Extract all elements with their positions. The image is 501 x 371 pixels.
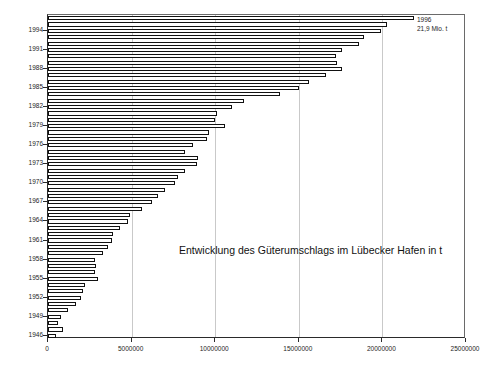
- bar-1952: [48, 296, 81, 300]
- bar-row: [48, 181, 466, 185]
- y-tick-1970: [43, 182, 47, 183]
- x-tick-25000000: [465, 338, 466, 342]
- y-tick-label-1991: 1991: [29, 45, 43, 52]
- y-tick-label-1994: 1994: [29, 26, 43, 33]
- annotation-year-label: 1996: [417, 15, 447, 24]
- bar-row: [48, 61, 466, 65]
- bar-row: [48, 270, 466, 274]
- bar-1992: [48, 42, 359, 46]
- bar-1991: [48, 48, 342, 52]
- y-tick-1991: [43, 49, 47, 50]
- bar-row: [48, 35, 466, 39]
- bar-row: [48, 105, 466, 109]
- bar-row: [48, 99, 466, 103]
- bar-row: [48, 86, 466, 90]
- bar-row: [48, 296, 466, 300]
- bar-row: [48, 150, 466, 154]
- y-tick-1955: [43, 278, 47, 279]
- bar-1972: [48, 169, 185, 173]
- bar-1947: [48, 327, 63, 331]
- x-tick-5000000: [131, 338, 132, 342]
- y-tick-label-1967: 1967: [29, 197, 43, 204]
- annotation-peak-1996: 1996 21,9 Mio. t: [417, 15, 447, 33]
- bar-row: [48, 22, 466, 26]
- bar-1955: [48, 277, 98, 281]
- bar-row: [48, 232, 466, 236]
- bar-row: [48, 188, 466, 192]
- bar-row: [48, 321, 466, 325]
- bar-row: [48, 143, 466, 147]
- bar-row: [48, 194, 466, 198]
- bar-1988: [48, 67, 342, 71]
- bar-1987: [48, 73, 326, 77]
- chart-title: Entwicklung des Güterumschlags im Lübeck…: [179, 244, 442, 257]
- bar-row: [48, 277, 466, 281]
- bar-1981: [48, 111, 217, 115]
- bar-1976: [48, 143, 193, 147]
- bar-1982: [48, 105, 232, 109]
- y-tick-label-1955: 1955: [29, 274, 43, 281]
- bar-row: [48, 29, 466, 33]
- bar-row: [48, 258, 466, 262]
- x-tick-label-0: 0: [45, 345, 49, 353]
- x-tick-20000000: [381, 338, 382, 342]
- bar-1971: [48, 175, 178, 179]
- bar-1996: [48, 16, 414, 20]
- x-tick-label-20000000: 20000000: [367, 345, 396, 353]
- plot-area: Entwicklung des Güterumschlags im Lübeck…: [47, 14, 465, 338]
- bar-1961: [48, 238, 112, 242]
- bar-row: [48, 137, 466, 141]
- x-tick-15000000: [298, 338, 299, 342]
- bar-series: [48, 15, 464, 337]
- y-tick-1946: [43, 335, 47, 336]
- y-tick-1979: [43, 125, 47, 126]
- bar-row: [48, 92, 466, 96]
- x-tick-10000000: [214, 338, 215, 342]
- x-tick-label-5000000: 5000000: [118, 345, 143, 353]
- y-tick-label-1988: 1988: [29, 64, 43, 71]
- y-tick-1994: [43, 30, 47, 31]
- bar-1979: [48, 124, 225, 128]
- bar-1956: [48, 270, 95, 274]
- y-tick-label-1964: 1964: [29, 216, 43, 223]
- bar-1993: [48, 35, 364, 39]
- bar-row: [48, 162, 466, 166]
- bar-1977: [48, 137, 207, 141]
- bar-row: [48, 302, 466, 306]
- bar-row: [48, 334, 466, 338]
- bar-1963: [48, 226, 120, 230]
- y-tick-label-1958: 1958: [29, 255, 43, 262]
- y-tick-1988: [43, 68, 47, 69]
- bar-1970: [48, 181, 175, 185]
- bar-1964: [48, 219, 128, 223]
- bar-1994: [48, 29, 381, 33]
- y-tick-label-1982: 1982: [29, 102, 43, 109]
- bar-1978: [48, 130, 209, 134]
- bar-1958: [48, 258, 95, 262]
- bar-row: [48, 219, 466, 223]
- y-tick-label-1961: 1961: [29, 236, 43, 243]
- bar-row: [48, 156, 466, 160]
- bar-1984: [48, 92, 280, 96]
- y-tick-label-1952: 1952: [29, 293, 43, 300]
- bar-1951: [48, 302, 76, 306]
- bar-1989: [48, 61, 337, 65]
- y-tick-1952: [43, 297, 47, 298]
- y-tick-1985: [43, 87, 47, 88]
- bar-1950: [48, 308, 68, 312]
- bar-1980: [48, 118, 215, 122]
- bar-row: [48, 226, 466, 230]
- bar-1973: [48, 162, 197, 166]
- bar-1968: [48, 194, 158, 198]
- bar-row: [48, 200, 466, 204]
- bar-1954: [48, 283, 85, 287]
- bar-row: [48, 67, 466, 71]
- bar-1983: [48, 99, 244, 103]
- y-tick-1964: [43, 220, 47, 221]
- bar-1953: [48, 289, 83, 293]
- bar-1959: [48, 251, 103, 255]
- x-tick-label-25000000: 25000000: [451, 345, 480, 353]
- bar-row: [48, 169, 466, 173]
- bar-1965: [48, 213, 130, 217]
- bar-1966: [48, 207, 142, 211]
